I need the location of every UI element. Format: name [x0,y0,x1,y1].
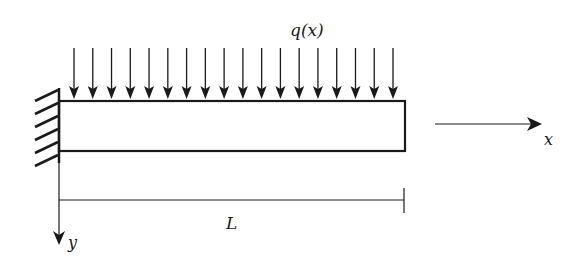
load-arrow-icon [125,48,135,99]
load-arrow-icon [238,48,248,99]
load-arrow-icon [294,48,304,99]
fixed-support [35,88,59,166]
x-axis [435,117,542,131]
load-arrow-icon [107,48,117,99]
load-arrow-icon [275,48,285,99]
load-arrow-icon [88,48,98,99]
cantilever-beam-diagram: q(x) y x L [0,0,577,260]
load-arrow-icon [144,48,154,99]
beam [59,101,405,151]
length-dimension [59,188,404,213]
wall-hatching-icon [35,90,58,166]
distributed-load [69,48,398,99]
load-arrow-icon [257,48,267,99]
load-arrow-icon [350,48,360,99]
load-arrow-icon [182,48,192,99]
load-arrow-icon [200,48,210,99]
load-arrow-icon [219,48,229,99]
x-axis-label: x [544,130,553,149]
y-axis-label: y [67,233,78,252]
length-label: L [225,213,237,233]
load-arrow-icon [69,48,79,99]
load-arrow-icon [332,48,342,99]
load-label: q(x) [290,20,324,40]
y-axis [53,151,65,245]
load-arrow-icon [163,48,173,99]
load-arrow-icon [388,48,398,99]
load-arrow-icon [369,48,379,99]
load-arrow-icon [313,48,323,99]
